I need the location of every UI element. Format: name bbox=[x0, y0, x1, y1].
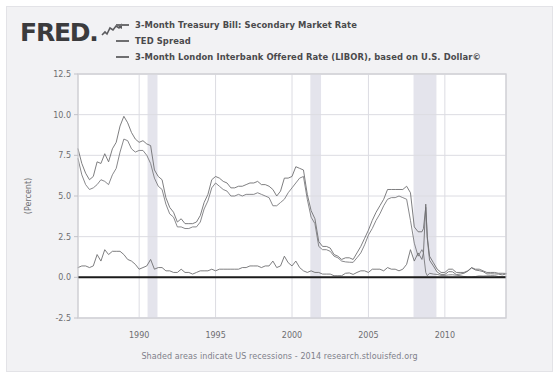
x-tick-label: 2000 bbox=[282, 331, 302, 340]
fred-logo[interactable]: FRED . bbox=[20, 19, 123, 45]
legend-item[interactable]: TED Spread bbox=[116, 34, 481, 48]
x-tick-label: 1995 bbox=[205, 331, 225, 340]
x-tick-label: 1990 bbox=[129, 331, 149, 340]
chart-footer-note: Shaded areas indicate US recessions - 20… bbox=[0, 352, 559, 361]
legend-label-ted: TED Spread bbox=[135, 36, 191, 46]
legend-swatch-ted bbox=[116, 40, 129, 42]
legend-swatch-libor bbox=[116, 56, 129, 58]
legend-item[interactable]: 3-Month Treasury Bill: Secondary Market … bbox=[116, 18, 481, 32]
chart-area: -2.50.02.55.07.510.012.51990199520002005… bbox=[6, 62, 553, 352]
x-tick-label: 2005 bbox=[358, 331, 378, 340]
fred-dot: . bbox=[89, 20, 99, 45]
fred-wordmark: FRED bbox=[20, 20, 89, 45]
y-axis-title: (Percent) bbox=[24, 178, 33, 214]
chart-legend: 3-Month Treasury Bill: Secondary Market … bbox=[116, 18, 481, 66]
fred-chart-page: FRED . 3-Month Treasury Bill: Secondary … bbox=[0, 0, 559, 378]
y-tick-label: 2.5 bbox=[58, 233, 71, 242]
y-tick-label: 10.0 bbox=[53, 111, 71, 120]
y-tick-label: -2.5 bbox=[55, 314, 71, 323]
y-tick-label: 12.5 bbox=[53, 70, 71, 79]
y-tick-label: 7.5 bbox=[58, 151, 71, 160]
chart-header: FRED . 3-Month Treasury Bill: Secondary … bbox=[0, 6, 547, 62]
legend-swatch-tbill bbox=[116, 24, 129, 26]
legend-label-tbill: 3-Month Treasury Bill: Secondary Market … bbox=[135, 20, 357, 30]
legend-label-libor: 3-Month London Interbank Offered Rate (L… bbox=[135, 52, 481, 62]
x-tick-label: 2010 bbox=[435, 331, 455, 340]
line-chart-svg: -2.50.02.55.07.510.012.51990199520002005… bbox=[6, 62, 553, 352]
y-tick-label: 0.0 bbox=[58, 273, 71, 282]
y-tick-label: 5.0 bbox=[58, 192, 71, 201]
